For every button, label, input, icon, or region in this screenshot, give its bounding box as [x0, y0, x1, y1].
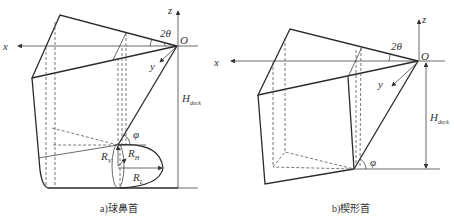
figure-a-bulbous-bow: x z O 2θ y φ Hdeck RV RH RL a)球鼻首: [2, 4, 201, 215]
inner-section-b: [348, 47, 362, 77]
stem-vertical-b: [348, 77, 354, 169]
phi-arc-b: [360, 159, 366, 169]
caption-a: a)球鼻首: [100, 202, 138, 215]
stem-line-b: [354, 61, 418, 169]
origin-label-b: O: [421, 50, 429, 62]
y-label-b: y: [377, 78, 383, 90]
rh-arrow: [118, 159, 126, 166]
theta-arc-a2: [150, 39, 152, 46]
rv-label: RV: [100, 150, 113, 164]
stem-line-a: [118, 46, 177, 145]
figure-b-wedge-bow: x z O 2θ y φ Hdeck b)楔形首: [213, 13, 449, 215]
rh-label: RH: [127, 147, 140, 161]
bow-geometry-figure: x z O 2θ y φ Hdeck RV RH RL a)球鼻首 x z O: [0, 0, 454, 219]
phi-arc-a: [124, 135, 130, 145]
angle-2theta-b: 2θ: [391, 40, 403, 52]
x-label-b: x: [213, 56, 219, 68]
deck-outline-b: [258, 29, 418, 95]
inner-section-a: [113, 33, 126, 60]
caption-b: b)楔形首: [332, 202, 370, 215]
hdeck-label-b: Hdeck: [429, 111, 449, 125]
deck-outline-a: [32, 15, 177, 78]
z-label-b: z: [421, 13, 427, 25]
phi-label-b: φ: [370, 156, 376, 168]
rl-label: RL: [132, 171, 144, 185]
origin-label-a: O: [180, 34, 188, 46]
x-label-a: x: [2, 40, 8, 52]
hull-outline-b: [258, 95, 354, 184]
hidden-line: [360, 48, 361, 166]
phi-label-a: φ: [133, 128, 139, 140]
keel-hidden-b: [273, 152, 354, 169]
z-label-a: z: [167, 4, 173, 16]
hdeck-label-a: Hdeck: [181, 92, 201, 106]
angle-2theta-a: 2θ: [160, 27, 172, 39]
waterline-hidden-a: [52, 128, 118, 145]
theta-arc-b: [389, 54, 390, 61]
y-label-a: y: [149, 60, 155, 72]
side-shell-a: [32, 78, 178, 188]
